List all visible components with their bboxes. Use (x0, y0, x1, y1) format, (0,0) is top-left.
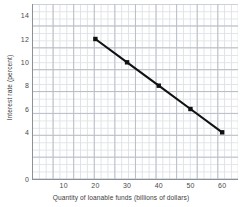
data-point-marker (157, 83, 161, 87)
x-axis-tick-label: 10 (54, 182, 74, 189)
x-axis-tick-label: 20 (85, 182, 105, 189)
x-axis-tick-label: 60 (212, 182, 232, 189)
x-axis-tick-label: 30 (117, 182, 137, 189)
data-point-marker (188, 107, 192, 111)
y-axis-ticks: 0468101214 (0, 0, 29, 207)
data-point-marker (125, 60, 129, 64)
demand-curve-series (32, 4, 238, 179)
y-axis-title: Interest rate (percent) (6, 33, 13, 143)
x-axis-tick-label: 50 (181, 182, 201, 189)
loanable-funds-demand-chart: 0468101214 102030405060 Quantity of loan… (0, 0, 242, 207)
y-axis-tick-label: 14 (3, 12, 29, 19)
data-point-marker (220, 130, 224, 134)
x-axis-title: Quantity of loanable funds (billions of … (0, 194, 242, 201)
x-axis-tick-label: 40 (149, 182, 169, 189)
x-axis-line (32, 179, 238, 180)
y-axis-tick-label: 0 (3, 176, 29, 183)
data-point-marker (93, 37, 97, 41)
